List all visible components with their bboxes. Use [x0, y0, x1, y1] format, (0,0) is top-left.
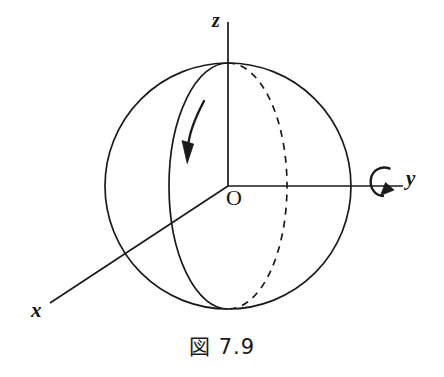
origin-label: O: [226, 187, 242, 209]
x-axis-line: [50, 186, 228, 303]
figure-caption: 図 7.9: [0, 330, 444, 360]
meridian-rotation-arrowhead-icon: [182, 141, 194, 164]
z-axis-label: z: [212, 10, 220, 30]
x-axis-label: x: [31, 300, 42, 321]
y-axis-label: y: [406, 168, 415, 189]
y-axis-spin-arrowhead-icon: [381, 183, 395, 196]
sphere-coordinate-diagram: [0, 0, 444, 377]
meridian-near-half-solid: [169, 63, 228, 309]
figure-container: z y x O 図 7.9: [0, 0, 444, 377]
meridian-rotation-arrow-shaft: [188, 101, 204, 147]
